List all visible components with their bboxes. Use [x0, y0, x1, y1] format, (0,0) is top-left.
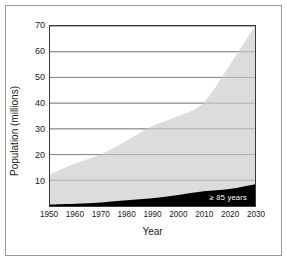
- y-tick-label-10: 10: [35, 177, 45, 186]
- y-tick-label-20: 20: [35, 151, 45, 160]
- area-chart-svg: [50, 26, 255, 206]
- figure-container: Population (millions) ≥ 85 years 1020304…: [0, 0, 287, 261]
- series-area-total: [50, 26, 255, 206]
- x-tick-label-1960: 1960: [66, 211, 84, 219]
- y-tick-label-60: 60: [35, 47, 45, 56]
- chart-area: ≥ 85 years 10203040506070 19501960197019…: [49, 25, 256, 207]
- plot-area: ≥ 85 years: [49, 25, 256, 207]
- x-tick-label-2020: 2020: [221, 211, 239, 219]
- x-tick-label-2010: 2010: [195, 211, 213, 219]
- x-tick-label-2000: 2000: [169, 211, 187, 219]
- y-tick-label-30: 30: [35, 125, 45, 134]
- x-tick-label-1950: 1950: [40, 211, 58, 219]
- y-axis-title: Population (millions): [9, 85, 20, 175]
- y-tick-label-70: 70: [35, 21, 45, 30]
- x-tick-label-1990: 1990: [143, 211, 161, 219]
- x-axis-title: Year: [49, 226, 256, 237]
- y-tick-label-50: 50: [35, 73, 45, 82]
- x-tick-label-1980: 1980: [118, 211, 136, 219]
- legend-label-85-plus: ≥ 85 years: [210, 193, 247, 202]
- x-tick-label-2030: 2030: [247, 211, 265, 219]
- x-tick-label-1970: 1970: [92, 211, 110, 219]
- y-tick-label-40: 40: [35, 99, 45, 108]
